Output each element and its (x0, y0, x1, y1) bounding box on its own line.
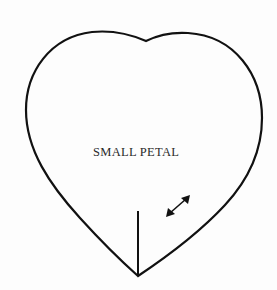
pattern-canvas: SMALL PETAL (0, 0, 277, 290)
grain-arrow-icon (166, 195, 190, 217)
pattern-piece-label: SMALL PETAL (93, 145, 189, 160)
